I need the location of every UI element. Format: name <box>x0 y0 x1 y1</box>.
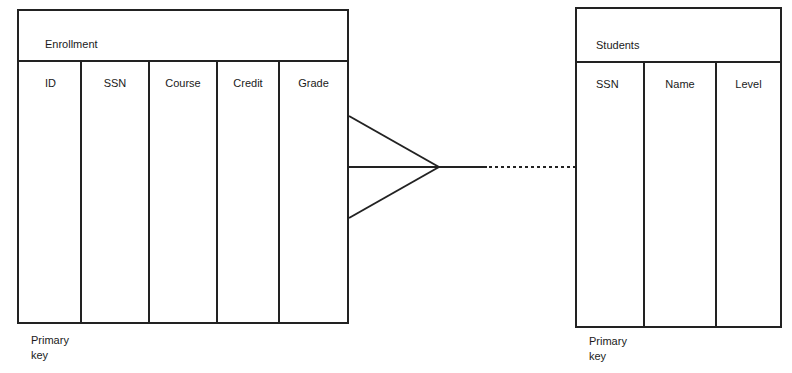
crows-foot-icon <box>349 116 439 218</box>
relationship-connector <box>0 0 792 373</box>
